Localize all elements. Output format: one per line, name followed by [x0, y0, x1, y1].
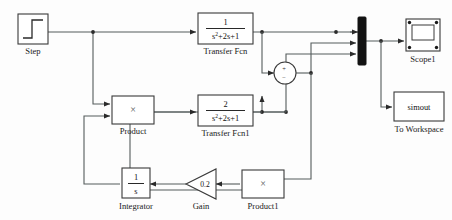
- block-step-label: Step: [25, 46, 40, 56]
- sum-plus-sign: +: [282, 65, 286, 72]
- block-integrator[interactable]: 1 s Integrator: [119, 168, 153, 211]
- block-product1-label: Product1: [247, 201, 278, 211]
- block-integrator-label: Integrator: [119, 201, 153, 211]
- sum-minus-sign: −: [282, 74, 286, 81]
- scope-screen-icon: [412, 25, 434, 40]
- block-transfer-fcn-label: Transfer Fcn: [204, 46, 249, 56]
- block-gain-label: Gain: [193, 201, 210, 211]
- block-scope1[interactable]: Scope1: [406, 19, 440, 64]
- block-to-workspace[interactable]: simout To Workspace: [394, 92, 444, 134]
- wire-integrator-to-product: [84, 116, 120, 184]
- block-step[interactable]: Step: [18, 14, 48, 56]
- product1-multiply-icon: ×: [260, 178, 266, 189]
- wire-sum-to-mux: [311, 43, 356, 73]
- block-sum[interactable]: + −: [274, 62, 296, 84]
- wire-step-to-product: [93, 32, 110, 104]
- wire-sum-to-product1-a: [250, 73, 311, 179]
- scope-screw-tr: [435, 21, 438, 24]
- block-product1[interactable]: × Product1: [242, 170, 284, 211]
- junction-tf-pre-mux: [334, 30, 338, 34]
- transfer-fcn1-numerator: 2: [223, 100, 227, 109]
- block-transfer-fcn1[interactable]: 2 s2+2s+1 Transfer Fcn1: [198, 95, 253, 138]
- mux-bar-icon: [358, 17, 366, 65]
- block-diagram: Step 1 s2+2s+1 Transfer Fcn 2 s2+2s+1 Tr…: [0, 0, 452, 220]
- wire-tf1-to-mux: [286, 54, 356, 112]
- block-to-workspace-label: To Workspace: [395, 124, 444, 134]
- gain-value: 0.2: [200, 180, 210, 189]
- wire-tf1-to-sum-minus: [262, 96, 286, 112]
- integrator-denominator: s: [134, 187, 137, 196]
- block-product[interactable]: × Product: [112, 96, 154, 136]
- transfer-fcn-numerator: 1: [223, 18, 227, 27]
- block-product-label: Product: [120, 126, 147, 136]
- diagram-canvas: Step 1 s2+2s+1 Transfer Fcn 2 s2+2s+1 Tr…: [0, 0, 452, 220]
- block-transfer-fcn1-label: Transfer Fcn1: [201, 128, 249, 138]
- wire-tf-to-sum-plus: [262, 32, 274, 73]
- scope-screw-tl: [408, 21, 411, 24]
- wire-mux-to-workspace: [381, 41, 392, 107]
- product-multiply-icon: ×: [130, 104, 136, 115]
- block-mux[interactable]: [358, 17, 366, 65]
- scope-screw-bl: [408, 46, 411, 49]
- scope-screw-br: [435, 46, 438, 49]
- junction-step-out: [91, 30, 95, 34]
- block-scope1-label: Scope1: [410, 54, 435, 64]
- integrator-numerator: 1: [134, 173, 138, 182]
- block-transfer-fcn[interactable]: 1 s2+2s+1 Transfer Fcn: [198, 13, 253, 56]
- to-workspace-variable: simout: [408, 103, 431, 112]
